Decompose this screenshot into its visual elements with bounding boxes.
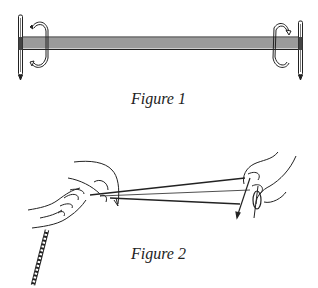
right-rod-icon [299,21,303,80]
twisted-cord-icon [33,230,47,285]
pinching-hand-icon [68,161,119,206]
twisting-cord-illustration [0,130,318,288]
figure-2-caption: Figure 2 [131,245,186,263]
left-rod-icon [19,15,23,80]
figure-1: Figure 1 [0,0,318,130]
warp-threads [20,37,300,50]
figure-2: Figure 2 [0,130,318,288]
figure-1-caption: Figure 1 [131,90,186,108]
warp-clamps-illustration [0,0,318,130]
left-hand-icon [28,188,86,228]
right-hand-icon [243,152,296,204]
